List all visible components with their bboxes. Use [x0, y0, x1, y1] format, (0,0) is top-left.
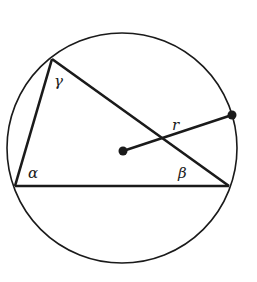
label-gamma: γ — [54, 72, 63, 90]
label-alpha: α — [28, 164, 38, 182]
inscribed-triangle-diagram: γ α β r — [0, 0, 257, 282]
label-beta: β — [177, 164, 187, 182]
label-radius: r — [172, 116, 180, 134]
triangle-side-gamma-beta — [52, 59, 229, 186]
radius-endpoint — [228, 111, 237, 120]
center-point — [119, 147, 128, 156]
